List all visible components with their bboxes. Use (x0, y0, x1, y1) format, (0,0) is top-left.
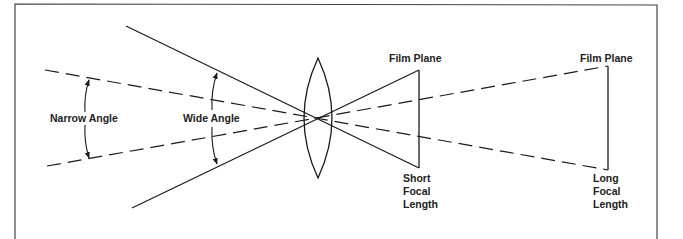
film-plane-short-label: Film Plane (389, 52, 442, 64)
lens-shape (304, 58, 332, 178)
long-focal-length-line3: Length (593, 198, 628, 210)
narrow-angle-label: Narrow Angle (50, 112, 118, 124)
film-plane-long-label: Film Plane (580, 52, 633, 64)
long-focal-length-line1: Long (593, 172, 619, 184)
wide-angle-arc-upper (212, 73, 217, 110)
wide-ray-bottom (132, 70, 419, 208)
wide-ray-top (126, 26, 419, 168)
short-focal-length-line2: Focal (403, 185, 431, 197)
narrow-angle-arc-lower (85, 125, 89, 158)
focal-length-diagram: Narrow Angle Wide Angle Film Plane Film … (0, 0, 683, 239)
wide-angle-arc-lower (212, 127, 217, 164)
short-focal-length-line1: Short (403, 172, 431, 184)
narrow-angle-arc-upper (85, 80, 89, 112)
wide-angle-label: Wide Angle (183, 112, 240, 124)
short-focal-length-line3: Length (403, 198, 438, 210)
long-focal-length-line2: Focal (593, 185, 621, 197)
